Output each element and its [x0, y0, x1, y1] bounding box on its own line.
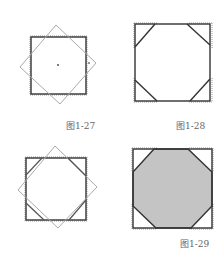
figure-label-1-28: 图1-28	[176, 119, 205, 132]
corner-cut-tl	[135, 24, 155, 47]
octagon-edge-br	[69, 200, 86, 220]
side-point	[88, 62, 90, 64]
corner-cut-br	[190, 79, 210, 101]
octagon-edge-tr	[68, 158, 86, 176]
figure-1-28	[134, 23, 212, 102]
corner-cut-tr	[187, 24, 210, 45]
shaded-octagon	[133, 149, 212, 228]
octagon-edge-tl	[26, 158, 42, 175]
figure-unlabeled	[18, 146, 97, 228]
figure-label-1-29: 图1-29	[180, 237, 209, 250]
figure-label-1-27: 图1-27	[66, 119, 95, 132]
corner-cut-bl	[135, 80, 157, 101]
figure-1-29	[132, 148, 213, 229]
figure-1-27	[20, 25, 96, 104]
center-point	[57, 64, 59, 66]
